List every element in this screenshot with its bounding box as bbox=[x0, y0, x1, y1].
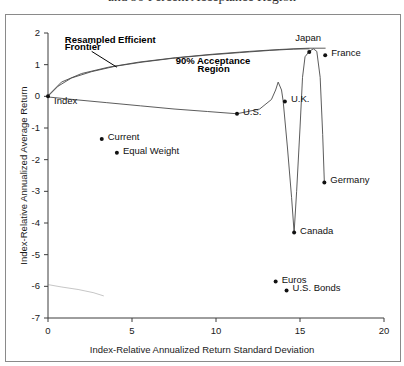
data-point-marker[interactable] bbox=[46, 94, 50, 98]
chart-annotation: Frontier bbox=[65, 41, 101, 52]
data-point-label: U.K. bbox=[291, 93, 309, 104]
data-point-marker[interactable] bbox=[292, 231, 296, 235]
data-point-label: France bbox=[331, 47, 361, 58]
x-axis-tick-label: 5 bbox=[120, 325, 144, 336]
series-curve bbox=[49, 285, 104, 296]
annotation-leader-line bbox=[92, 51, 117, 67]
data-point-marker[interactable] bbox=[274, 280, 278, 284]
data-point-label: Germany bbox=[330, 174, 369, 185]
figure-page: and 90 Percent Acceptance Region 210-1-2… bbox=[0, 0, 404, 366]
data-point-marker[interactable] bbox=[285, 288, 289, 292]
data-point-marker[interactable] bbox=[235, 112, 239, 116]
data-point-marker[interactable] bbox=[100, 137, 104, 141]
data-point-label: U.S. bbox=[243, 106, 261, 117]
x-axis-tick-label: 0 bbox=[36, 325, 60, 336]
data-point-label: U.S. Bonds bbox=[293, 282, 341, 293]
data-point-label: Japan bbox=[295, 32, 321, 43]
x-axis-tick-label: 20 bbox=[372, 325, 396, 336]
series-curve bbox=[48, 49, 324, 233]
data-point-label: Equal Weight bbox=[123, 145, 179, 156]
data-point-marker[interactable] bbox=[322, 180, 326, 184]
data-point-marker[interactable] bbox=[307, 50, 311, 54]
data-point-marker[interactable] bbox=[283, 99, 287, 103]
x-axis-tick-label: 10 bbox=[204, 325, 228, 336]
data-point-label: Canada bbox=[300, 225, 333, 236]
data-point-label: Index bbox=[54, 95, 77, 106]
x-axis-title: Index-Relative Annualized Return Standar… bbox=[0, 344, 404, 355]
data-point-marker[interactable] bbox=[323, 53, 327, 57]
data-point-marker[interactable] bbox=[115, 151, 119, 155]
chart-annotation: Region bbox=[198, 63, 230, 74]
data-point-label: Current bbox=[108, 131, 140, 142]
x-axis-tick-label: 15 bbox=[288, 325, 312, 336]
y-axis-title: Index-Relative Annualized Average Return bbox=[18, 26, 29, 326]
